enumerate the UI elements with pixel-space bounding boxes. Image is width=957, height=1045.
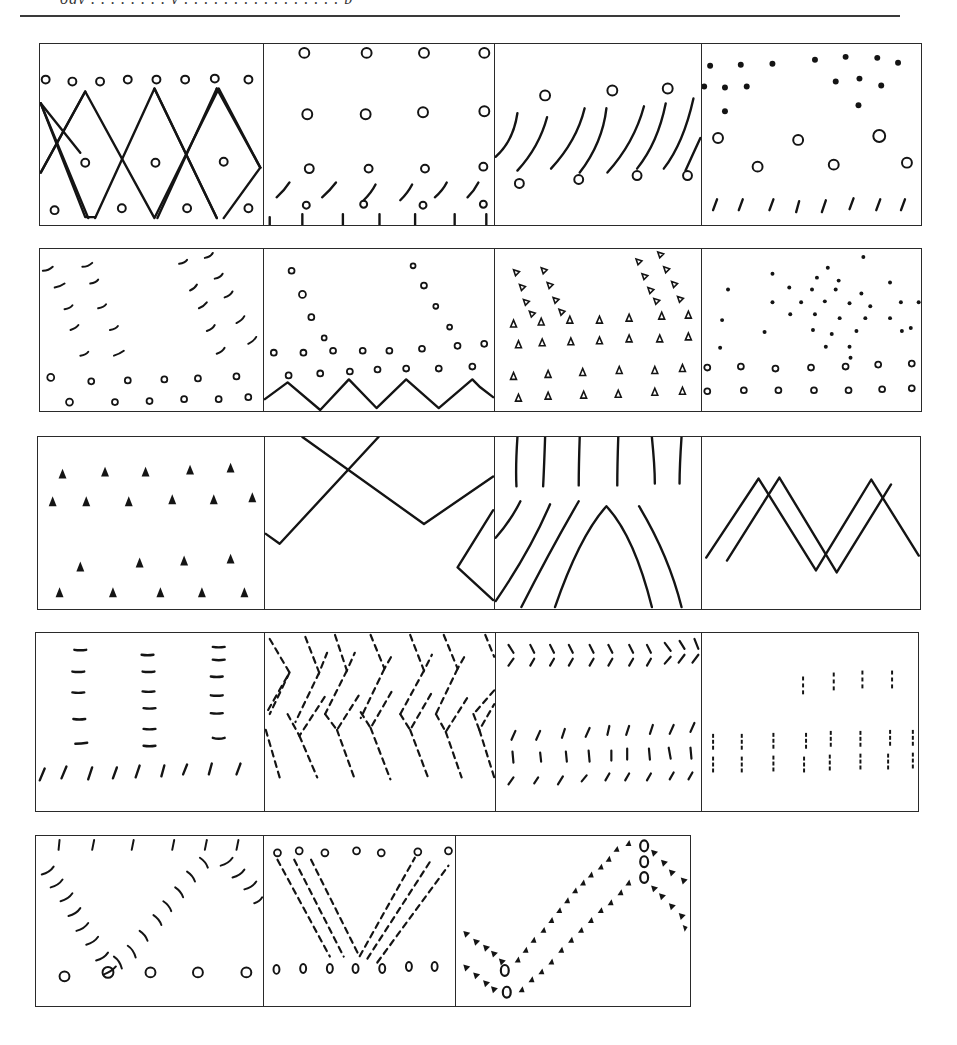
zigzag-lattice-drawing	[40, 44, 263, 225]
diagonal-curved-strokes-drawing	[495, 44, 701, 225]
panel-4c	[496, 633, 702, 811]
dots-circles-ticks-drawing	[702, 44, 921, 225]
header-rule	[20, 15, 900, 17]
filled-triangle-rows-drawing	[38, 437, 264, 609]
panel-4d	[702, 633, 918, 811]
dashed-v-drawing	[264, 836, 455, 1006]
dot-diamond-drawing	[702, 249, 921, 411]
panel-2d	[702, 249, 921, 411]
panel-3a	[38, 437, 265, 609]
panel-3b	[265, 437, 495, 609]
panel-3d	[702, 437, 920, 609]
circle-v-over-zigzag-drawing	[264, 249, 494, 411]
panel-3c	[495, 437, 702, 609]
panel-2b	[264, 249, 495, 411]
double-zigzag-drawing	[702, 437, 920, 609]
panel-4b	[265, 633, 496, 811]
pattern-row-1	[39, 43, 922, 226]
triangle-fan-drawing	[495, 249, 701, 411]
panel-1d	[702, 44, 921, 225]
panel-1b	[264, 44, 495, 225]
vertical-and-arch-drawing	[495, 437, 701, 609]
pattern-row-5	[35, 835, 691, 1007]
dotted-dash-clusters-drawing	[702, 633, 918, 811]
panel-1a	[40, 44, 264, 225]
panel-4a	[36, 633, 265, 811]
arc-v-drawing	[40, 249, 263, 411]
panel-2a	[40, 249, 264, 411]
wavy-triangle-bands-drawing	[456, 836, 690, 1006]
pattern-row-4	[35, 632, 919, 812]
pattern-row-2	[39, 248, 922, 412]
dashed-chevron-drawing	[265, 633, 495, 811]
crossing-lines-drawing	[265, 437, 494, 609]
panel-2c	[495, 249, 702, 411]
panel-5c	[456, 836, 690, 1006]
panel-5a	[36, 836, 264, 1006]
circle-grid-drawing	[264, 44, 494, 225]
dash-columns-drawing	[36, 633, 264, 811]
arc-v-curve-drawing	[36, 836, 263, 1006]
panel-1c	[495, 44, 702, 225]
panel-5b	[264, 836, 456, 1006]
pattern-row-3	[37, 436, 921, 610]
cropped-header-text: ogy . . . . . . . . y . . . . . . . . . …	[60, 0, 900, 4]
chevron-ticks-drawing	[496, 633, 701, 811]
